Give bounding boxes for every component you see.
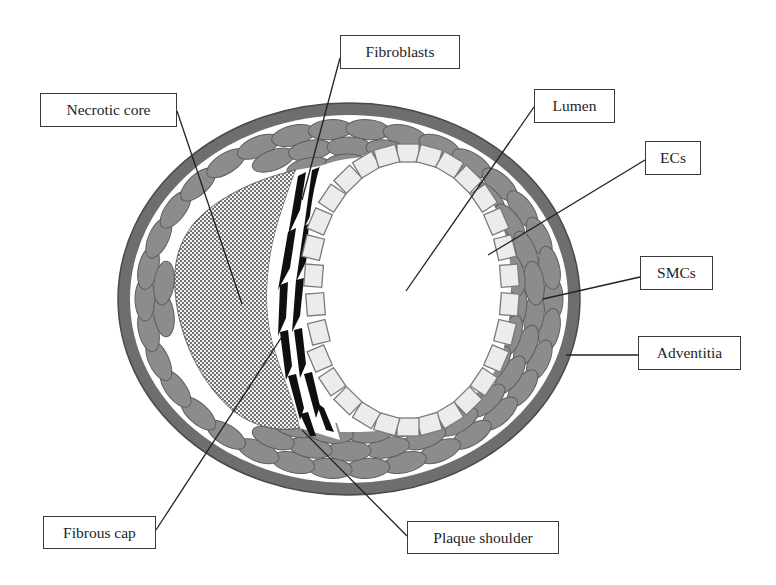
label-adventitia: Adventitia: [638, 336, 741, 370]
label-smcs: SMCs: [640, 256, 713, 290]
label-necrotic-core: Necrotic core: [40, 93, 177, 127]
ec-cell: [397, 144, 419, 162]
ec-cell: [306, 293, 326, 316]
ec-cell: [500, 264, 520, 287]
ec-cell: [500, 293, 520, 316]
ec-cell: [304, 264, 324, 287]
label-plaque-shoulder: Plaque shoulder: [407, 521, 559, 554]
artery-cross-section-diagram: [0, 0, 776, 585]
smc-cell: [327, 441, 371, 461]
label-fibrous-cap: Fibrous cap: [43, 516, 156, 549]
label-ecs: ECs: [645, 141, 701, 175]
label-fibroblasts: Fibroblasts: [340, 35, 460, 69]
ec-cell: [397, 418, 419, 436]
label-lumen: Lumen: [534, 89, 615, 123]
